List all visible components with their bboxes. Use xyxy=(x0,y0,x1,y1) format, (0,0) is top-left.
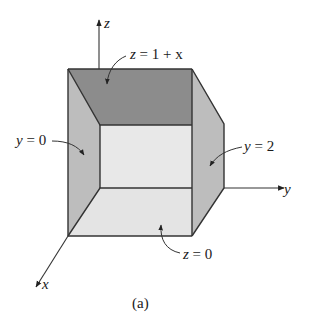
y-axis-label: y xyxy=(282,181,291,197)
x-axis-label: x xyxy=(41,276,49,292)
label-right-face: y = 2 xyxy=(242,138,274,154)
diagram-canvas: z y x z = 1 + x y = 0 y = 2 z = 0 (a) xyxy=(0,0,312,321)
label-left-face: y = 0 xyxy=(14,132,46,148)
figure-caption: (a) xyxy=(132,295,149,312)
label-bottom-face: z = 0 xyxy=(182,246,212,262)
label-top-face: z = 1 + x xyxy=(129,46,183,62)
back-face xyxy=(100,125,192,188)
x-axis xyxy=(36,236,68,287)
z-axis-label: z xyxy=(103,15,110,31)
